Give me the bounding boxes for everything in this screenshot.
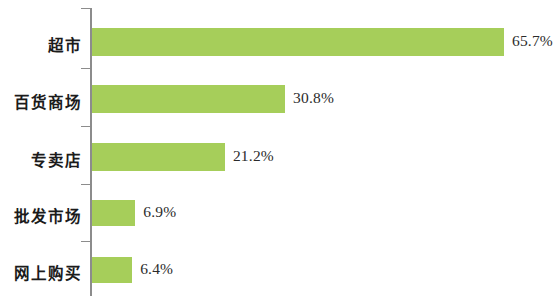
value-label-4: 6.4%	[140, 260, 173, 278]
category-label-3: 批发市场	[0, 204, 82, 226]
value-label-0: 65.7%	[512, 32, 553, 50]
axis-tick-2	[81, 126, 90, 127]
value-label-2: 21.2%	[233, 147, 274, 165]
axis-tick-4	[81, 241, 90, 242]
bar-3	[92, 200, 135, 226]
category-label-4: 网上购买	[0, 261, 82, 283]
bar-4	[92, 257, 132, 283]
bar-1	[92, 85, 285, 113]
axis-tick-0	[81, 8, 90, 9]
horizontal-bar-chart: 超市 65.7% 百货商场 30.8% 专卖店 21.2% 批发市场 6.9% …	[0, 0, 555, 296]
category-label-1: 百货商场	[0, 90, 82, 112]
plot-area: 超市 65.7% 百货商场 30.8% 专卖店 21.2% 批发市场 6.9% …	[0, 0, 555, 296]
bar-0	[92, 28, 504, 56]
bar-2	[92, 143, 225, 171]
value-label-1: 30.8%	[293, 89, 334, 107]
axis-tick-3	[81, 184, 90, 185]
value-label-3: 6.9%	[143, 203, 176, 221]
axis-tick-1	[81, 68, 90, 69]
category-label-2: 专卖店	[0, 148, 82, 170]
category-label-0: 超市	[0, 33, 82, 55]
